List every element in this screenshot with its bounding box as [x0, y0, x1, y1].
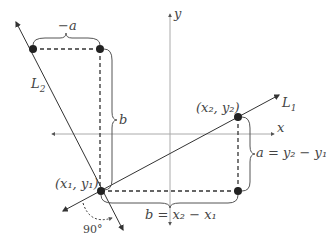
point-top-right	[96, 45, 104, 53]
dashed-legs	[33, 49, 238, 191]
x-axis-label: x	[277, 120, 284, 135]
point-top-left	[29, 45, 37, 53]
brace-label-right: a = y₂ − y₁	[256, 145, 327, 160]
line-l2	[16, 22, 123, 230]
angle-arc	[83, 203, 112, 220]
y-axis-label: y	[174, 6, 181, 21]
brace-label-bottom: b = x₂ − x₁	[145, 207, 217, 222]
point-bottom-right	[234, 187, 242, 195]
brace-label-top: −a	[58, 18, 77, 33]
line-l2-label: L2	[31, 76, 45, 94]
point-p1-label: (x₁, y₁)	[55, 176, 99, 191]
point-p2-label: (x₂, y₂)	[196, 100, 240, 115]
line-l1	[63, 95, 279, 211]
angle-label: 90°	[83, 223, 103, 236]
diagram-canvas: −a b a = y₂ − y₁ b = x₂ − x₁ y x (x₂, y₂…	[0, 0, 327, 246]
brace-label-left: b	[119, 112, 127, 127]
line-l1-label: L1	[282, 95, 296, 113]
